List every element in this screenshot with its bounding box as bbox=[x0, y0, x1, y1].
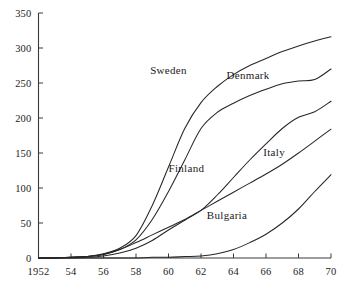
series-line-finland bbox=[39, 101, 332, 258]
y-axis-ticks bbox=[39, 13, 44, 258]
y-axis-tick-label: 300 bbox=[0, 43, 32, 54]
series-label-sweden: Sweden bbox=[150, 64, 187, 76]
x-axis-tick-label: 66 bbox=[261, 266, 272, 277]
x-axis-tick-label: 1952 bbox=[28, 266, 50, 277]
x-axis-tick-label: 60 bbox=[163, 266, 174, 277]
x-axis-tick-label: 62 bbox=[196, 266, 207, 277]
y-axis-tick-label: 150 bbox=[0, 148, 32, 159]
y-axis-tick-label: 100 bbox=[0, 183, 32, 194]
x-axis-tick-label: 70 bbox=[326, 266, 337, 277]
y-axis-tick-label: 50 bbox=[0, 218, 32, 229]
y-axis-tick-label: 0 bbox=[0, 253, 32, 264]
y-axis-tick-label: 200 bbox=[0, 113, 32, 124]
y-axis-tick-label: 250 bbox=[0, 78, 32, 89]
series-label-bulgaria: Bulgaria bbox=[207, 209, 247, 221]
x-axis-tick-label: 58 bbox=[131, 266, 142, 277]
y-axis-tick-label: 350 bbox=[0, 8, 32, 19]
series-line-italy bbox=[39, 129, 332, 258]
series-label-denmark: Denmark bbox=[227, 69, 270, 81]
x-axis-tick-label: 56 bbox=[98, 266, 109, 277]
series-label-italy: Italy bbox=[263, 146, 285, 158]
x-axis-tick-label: 54 bbox=[66, 266, 77, 277]
series-line-bulgaria bbox=[39, 175, 332, 258]
chart-container: 0501001502002503003501952545658606264666… bbox=[0, 0, 341, 285]
chart-plot-area bbox=[0, 0, 341, 285]
x-axis-tick-label: 68 bbox=[293, 266, 304, 277]
series-label-finland: Finland bbox=[169, 162, 205, 174]
x-axis-tick-label: 64 bbox=[228, 266, 239, 277]
